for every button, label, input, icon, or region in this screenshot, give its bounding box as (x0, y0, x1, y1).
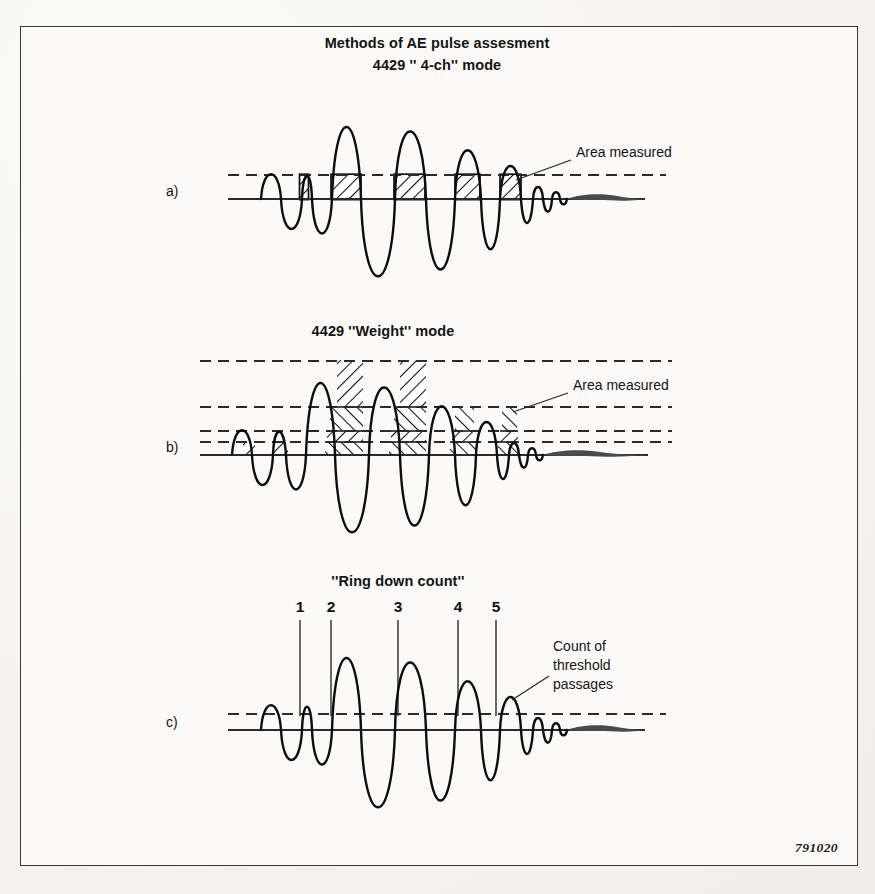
svg-text:5: 5 (492, 598, 501, 615)
svg-text:2: 2 (327, 598, 336, 615)
figure-id: 791020 (795, 840, 838, 855)
panel-c: c) ''Ring down count'' 1 2 3 4 5 (166, 573, 666, 807)
panel-b-leader-line (513, 393, 568, 412)
svg-text:4: 4 (454, 598, 463, 615)
panel-b-waveform (232, 383, 543, 532)
panel-b-label: b) (166, 439, 178, 455)
panel-b-tail (543, 450, 648, 456)
svg-text:3: 3 (394, 598, 403, 615)
panel-c-annotation-line2: threshold (553, 657, 611, 673)
panel-c-label: c) (166, 714, 178, 730)
figure-title-line2: 4429 '' 4-ch'' mode (373, 57, 502, 73)
panel-c-heading: ''Ring down count'' (331, 573, 464, 589)
panel-a-label: a) (166, 183, 178, 199)
panel-c-tail (567, 725, 645, 731)
panel-a-tail (567, 194, 645, 200)
svg-text:1: 1 (296, 598, 305, 615)
panel-a-leader-line (516, 160, 571, 180)
figure-page: Methods of AE pulse assesment 4429 '' 4-… (0, 0, 875, 894)
panel-c-leader-line (512, 676, 549, 700)
panel-a-waveform (261, 127, 567, 276)
panel-a-annotation: Area measured (576, 144, 672, 160)
panel-c-waveform (261, 658, 567, 807)
panel-c-count-marks (300, 620, 496, 716)
panel-b-annotation: Area measured (573, 377, 669, 393)
panel-c-annotation-line3: passages (553, 676, 613, 692)
figure-title-line1: Methods of AE pulse assesment (325, 35, 550, 51)
panel-c-annotation-line1: Count of (553, 638, 606, 654)
panel-c-count-numbers: 1 2 3 4 5 (296, 598, 501, 615)
panel-b-heading: 4429 ''Weight'' mode (312, 323, 455, 339)
panel-b: b) 4429 ''Weight'' mode (166, 323, 672, 532)
figure-canvas: Methods of AE pulse assesment 4429 '' 4-… (0, 0, 875, 894)
panel-a: a) (166, 127, 672, 276)
